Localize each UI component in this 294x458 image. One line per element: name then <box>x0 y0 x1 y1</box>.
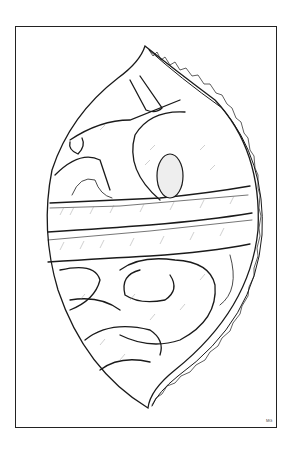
incision-outline <box>47 46 258 408</box>
abdominal-illustration <box>0 0 294 458</box>
gallbladder <box>157 154 183 198</box>
retractor-edge <box>149 50 262 406</box>
artist-signature: MG <box>266 418 272 423</box>
transverse-colon <box>50 186 250 203</box>
